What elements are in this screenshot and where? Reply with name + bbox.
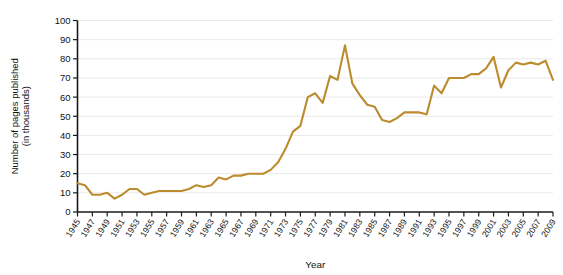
y-tick-label: 100 [55,15,71,26]
x-tick-label: 1995 [435,217,454,239]
x-tick-label: 1979 [316,217,335,239]
svg-text:(in thousands): (in thousands) [20,86,31,146]
x-tick-label: 1955 [138,217,157,239]
x-axis-title: Year [305,259,326,270]
x-tick-label: 2007 [524,217,543,239]
grid-lines [78,21,554,193]
x-tick-label: 1951 [108,217,127,239]
x-tick-label: 1991 [405,217,424,239]
y-tick-label: 50 [60,111,71,122]
x-tick-label: 1987 [376,217,395,239]
x-tick-label: 1969 [242,217,261,239]
y-tick-label: 80 [60,53,71,64]
line-chart: 0102030405060708090100194519471949195119… [0,0,563,275]
x-tick-label: 1977 [301,217,320,239]
y-tick-label: 70 [60,72,71,83]
x-tick-label: 2009 [539,217,558,239]
x-tick-label: 2003 [495,217,514,239]
x-tick-label: 1993 [420,217,439,239]
x-tick-label: 1961 [182,217,201,239]
y-tick-label: 20 [60,168,71,179]
x-tick-label: 1975 [286,217,305,239]
x-tick-label: 1957 [153,217,172,239]
x-tick-label: 1997 [450,217,469,239]
data-series-line [78,45,554,198]
x-tick-label: 2001 [480,217,499,239]
x-axis: 1945194719491951195319551957195919611963… [64,212,558,239]
x-tick-label: 1947 [78,217,97,239]
x-tick-label: 2005 [509,217,528,239]
x-tick-label: 1965 [212,217,231,239]
y-tick-label: 0 [65,206,70,217]
x-tick-label: 1949 [93,217,112,239]
y-tick-label: 10 [60,187,71,198]
x-tick-label: 1999 [465,217,484,239]
y-tick-label: 30 [60,149,71,160]
x-tick-label: 1983 [346,217,365,239]
x-tick-label: 1981 [331,217,350,239]
y-axis-title: Number of pages published(in thousands) [9,58,31,174]
y-tick-label: 90 [60,34,71,45]
x-tick-label: 1967 [227,217,246,239]
y-tick-label: 60 [60,92,71,103]
x-tick-label: 1959 [168,217,187,239]
x-tick-label: 1953 [123,217,142,239]
x-tick-label: 1989 [390,217,409,239]
y-axis: 0102030405060708090100 [55,15,78,218]
chart-container: 0102030405060708090100194519471949195119… [0,0,563,275]
x-tick-label: 1945 [64,217,83,239]
x-tick-label: 1971 [257,217,276,239]
y-tick-label: 40 [60,130,71,141]
svg-text:Number of pages published: Number of pages published [9,58,20,174]
x-tick-label: 1963 [197,217,216,239]
x-tick-label: 1973 [272,217,291,239]
x-tick-label: 1985 [361,217,380,239]
